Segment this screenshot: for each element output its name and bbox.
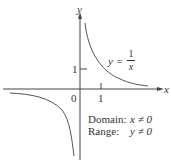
origin-label: 0 bbox=[71, 92, 77, 104]
y-tick-1-label: 1 bbox=[72, 63, 78, 75]
range-value: y ≠ 0 bbox=[130, 125, 152, 137]
domain-label: Domain: bbox=[88, 113, 127, 125]
equation-numerator: 1 bbox=[129, 49, 134, 59]
domain-value: x ≠ 0 bbox=[130, 113, 152, 125]
x-tick-1-label: 1 bbox=[98, 92, 104, 104]
y-axis-label: y bbox=[77, 3, 82, 15]
range-label: Range: bbox=[88, 125, 119, 137]
equation-lhs: y = bbox=[108, 55, 123, 67]
curve-left-branch bbox=[10, 93, 74, 156]
x-axis-arrow-icon bbox=[157, 87, 164, 91]
plot-area bbox=[0, 0, 171, 162]
equation-denominator: x bbox=[129, 62, 133, 72]
equation-fraction: 1 x bbox=[127, 49, 135, 72]
x-axis-label: x bbox=[164, 83, 169, 95]
